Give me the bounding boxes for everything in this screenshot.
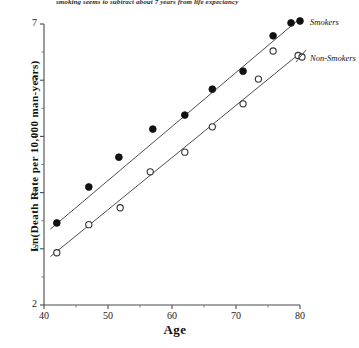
data-point-smokers — [270, 32, 277, 39]
data-point-non-smokers — [54, 250, 60, 256]
data-point-non-smokers — [86, 222, 92, 228]
trend-line-smokers — [50, 21, 296, 229]
data-point-non-smokers — [209, 124, 215, 130]
y-tick-label: 3 — [23, 242, 37, 253]
x-axis-title: Age — [120, 322, 230, 338]
x-tick-label: 40 — [32, 310, 56, 321]
data-point-non-smokers — [182, 149, 188, 155]
y-tick-label: 5 — [23, 129, 37, 140]
data-point-non-smokers — [147, 169, 153, 175]
y-tick-label: 4 — [23, 186, 37, 197]
x-tick-label: 50 — [96, 310, 120, 321]
legend-label-non-smokers: Non-Smokers — [310, 53, 356, 63]
data-point-non-smokers — [240, 101, 246, 107]
data-point-smokers — [115, 154, 122, 161]
data-point-smokers — [288, 19, 295, 26]
x-tick-label: 70 — [224, 310, 248, 321]
data-point-smokers — [149, 126, 156, 133]
data-point-non-smokers — [270, 48, 276, 54]
x-tick-label: 80 — [288, 310, 312, 321]
x-tick-label: 60 — [160, 310, 184, 321]
y-tick-label: 2 — [23, 298, 37, 309]
legend-label-smokers: Smokers — [310, 17, 339, 27]
scatter-plot-canvas — [0, 0, 359, 348]
data-point-non-smokers — [255, 76, 261, 82]
y-tick-label: 6 — [23, 73, 37, 84]
y-axis-title: Ln(Death Rate per 10,000 man-years) — [28, 36, 40, 276]
data-point-smokers — [181, 112, 188, 119]
data-point-smokers — [209, 86, 216, 93]
chart-figure: smoking seems to subtract about 7 years … — [0, 0, 359, 348]
data-point-smokers — [240, 68, 247, 75]
data-point-non-smokers — [117, 205, 123, 211]
y-tick-label: 7 — [23, 17, 37, 28]
data-point-smokers — [53, 220, 60, 227]
data-point-smokers — [85, 184, 92, 191]
legend-marker-smokers — [297, 18, 304, 25]
